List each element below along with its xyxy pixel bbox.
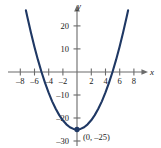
y-tick-label-20: 20 [61, 21, 70, 31]
x-axis: –8 –6 –4 –2 2 4 6 8 x [8, 67, 154, 86]
y-tick-label-10: 10 [61, 44, 70, 54]
plot-canvas: –8 –6 –4 –2 2 4 6 8 x 20 [0, 0, 161, 148]
x-axis-label: x [149, 67, 154, 77]
y-axis-label: y [76, 1, 81, 11]
y-axis: 20 10 –10 –20 –30 y [55, 1, 81, 146]
x-tick-label--8: –8 [15, 76, 25, 86]
parabola-figure: –8 –6 –4 –2 2 4 6 8 x 20 [0, 0, 161, 148]
x-tick-label--2: –2 [58, 76, 68, 86]
vertex-point-label: (0, –25) [83, 132, 110, 142]
x-tick-label-6: 6 [118, 76, 122, 86]
x-tick-label-2: 2 [89, 76, 93, 86]
vertex-point-marker [74, 127, 79, 132]
x-axis-tick-labels: –8 –6 –4 –2 2 4 6 8 [15, 76, 136, 86]
y-tick-label--30: –30 [55, 136, 69, 146]
y-tick-label--10: –10 [55, 90, 69, 100]
x-tick-label--6: –6 [29, 76, 39, 86]
x-tick-label-8: 8 [132, 76, 136, 86]
